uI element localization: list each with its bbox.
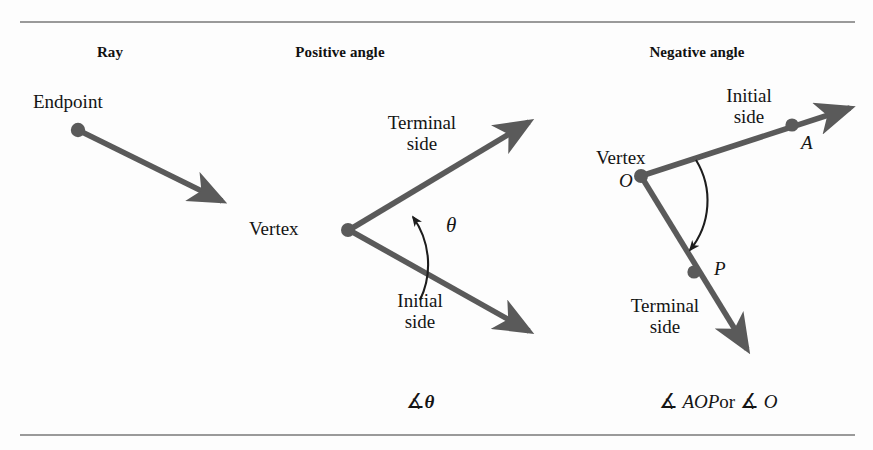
negative-angle-arc <box>690 160 708 250</box>
angle-name-theta: θ <box>425 391 435 412</box>
notation-positive-angle: ∡θ <box>406 389 435 414</box>
label-negative-vertex: Vertex <box>596 148 646 168</box>
positive-initial-side-arrow <box>349 230 529 331</box>
label-endpoint: Endpoint <box>33 92 103 112</box>
label-positive-initial-side-line2: side <box>405 312 436 332</box>
angle-symbol-theta: ∡ <box>406 389 425 413</box>
label-vertex-point-o: O <box>619 171 633 191</box>
positive-vertex-dot <box>341 223 355 237</box>
panel-title-ray: Ray <box>97 44 123 61</box>
label-negative-terminal-side-line1: Terminal <box>631 296 699 316</box>
negative-vertex-dot <box>634 169 648 183</box>
label-negative-terminal-side-line2: side <box>650 317 681 337</box>
diagram-artwork <box>0 0 873 450</box>
angle-name-o: O <box>764 391 778 412</box>
ray-arrow <box>80 131 222 201</box>
notation-negative-angle: ∡ AOPor ∡ O <box>659 389 778 414</box>
label-theta: θ <box>446 215 456 235</box>
label-positive-terminal-side-line1: Terminal <box>388 113 456 133</box>
angle-symbol-o: ∡ <box>740 389 759 413</box>
angle-notation-conjunction: or <box>719 391 735 412</box>
ray-diagram <box>71 123 222 201</box>
panel-title-negative-angle: Negative angle <box>649 44 744 61</box>
label-positive-terminal-side-line2: side <box>407 134 438 154</box>
positive-terminal-side-arrow <box>349 122 529 230</box>
point-a-dot <box>785 118 798 131</box>
panel-title-positive-angle: Positive angle <box>295 44 384 61</box>
angle-definitions-figure: Ray Positive angle Negative angle Endpoi… <box>0 0 873 450</box>
label-positive-vertex: Vertex <box>249 219 299 239</box>
bottom-divider-rule <box>20 434 855 436</box>
positive-angle-arc <box>413 217 428 300</box>
angle-symbol-aop: ∡ <box>659 389 678 413</box>
label-negative-initial-side-line2: side <box>734 107 765 127</box>
angle-name-aop: AOP <box>682 391 719 412</box>
ray-endpoint-dot <box>71 123 85 137</box>
label-negative-initial-side-line1: Initial <box>726 86 771 106</box>
label-positive-initial-side-line1: Initial <box>397 291 442 311</box>
point-p-dot <box>687 265 700 278</box>
label-point-p: P <box>714 259 726 279</box>
label-point-a: A <box>801 133 813 153</box>
top-divider-rule <box>20 21 855 23</box>
